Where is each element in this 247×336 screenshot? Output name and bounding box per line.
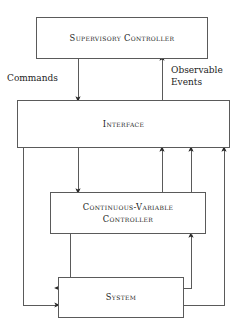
node-interface-label: Interface xyxy=(103,118,145,130)
edge-system-to-cvc xyxy=(184,235,191,288)
edge-label-observable-events: Observable Events xyxy=(171,64,223,88)
node-continuous-variable-controller[interactable]: Continuous-Variable Controller xyxy=(50,192,206,234)
node-supervisory-controller[interactable]: Supervisory Controller xyxy=(36,17,208,59)
edge-label-commands: Commands xyxy=(7,72,58,84)
node-system-label: System xyxy=(106,291,136,303)
node-system[interactable]: System xyxy=(58,277,184,318)
diagram-canvas: Supervisory Controller Interface Continu… xyxy=(0,0,247,336)
node-supervisory-controller-label: Supervisory Controller xyxy=(70,32,175,44)
node-interface[interactable]: Interface xyxy=(17,100,230,148)
node-continuous-variable-controller-label: Continuous-Variable Controller xyxy=(83,201,174,225)
